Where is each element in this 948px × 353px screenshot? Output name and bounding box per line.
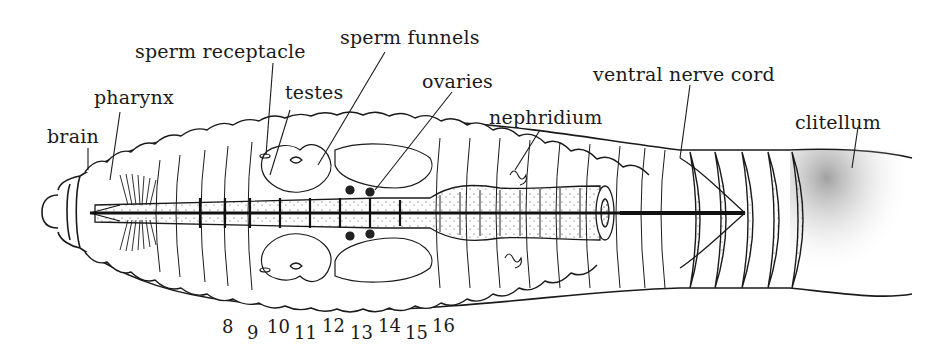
segment-number: 8 — [222, 318, 233, 336]
label-ventral-nerve-cord: ventral nerve cord — [593, 65, 775, 84]
label-clitellum: clitellum — [795, 113, 881, 132]
label-sperm-funnels: sperm funnels — [340, 28, 480, 47]
label-nephridium: nephridium — [489, 108, 603, 127]
label-ovaries: ovaries — [422, 72, 493, 91]
segment-number: 14 — [378, 317, 401, 335]
segment-number: 15 — [405, 324, 428, 342]
segment-number: 11 — [294, 324, 317, 342]
label-pharynx: pharynx — [94, 88, 174, 107]
posterior-rings — [690, 152, 803, 288]
segment-number: 12 — [322, 317, 345, 335]
label-sperm-receptacle: sperm receptacle — [135, 42, 306, 61]
segment-number: 9 — [247, 324, 258, 342]
segment-number: 10 — [267, 318, 290, 336]
segment-number: 16 — [432, 317, 455, 335]
segment-number: 13 — [350, 324, 373, 342]
label-brain: brain — [47, 127, 99, 146]
label-testes: testes — [285, 83, 343, 102]
